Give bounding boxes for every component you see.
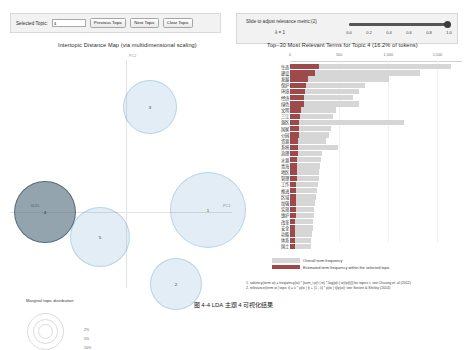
term-bar-row[interactable]: 青海	[236, 163, 464, 168]
term-bar-row[interactable]: 实现	[236, 207, 464, 212]
topic-bubble-label: 5	[99, 235, 101, 240]
term-label: 体系	[281, 237, 289, 243]
term-bar-row[interactable]: 保护	[236, 83, 464, 88]
topic-frequency-bar[interactable]	[290, 163, 297, 168]
term-bar-row[interactable]: 区域	[236, 194, 464, 199]
topic-frequency-bar[interactable]	[290, 194, 296, 199]
term-bar-row[interactable]: 加强	[236, 200, 464, 205]
term-label: 建设	[281, 70, 289, 76]
slider-track[interactable]	[349, 23, 449, 26]
selected-topic-input[interactable]	[52, 19, 86, 28]
term-bar-row[interactable]: 公园	[236, 132, 464, 137]
topic-frequency-bar[interactable]	[290, 132, 299, 137]
topic-frequency-bar[interactable]	[290, 225, 295, 230]
term-bar-row[interactable]: 体系	[236, 238, 464, 243]
term-bar-row[interactable]: 地区	[236, 169, 464, 174]
topic-frequency-bar[interactable]	[290, 70, 315, 75]
legend-swatch-topic	[272, 265, 300, 270]
term-bar-row[interactable]: 资源	[236, 138, 464, 143]
slider-tick-0-0: 0.0	[346, 30, 352, 35]
term-label: 推进	[281, 188, 289, 194]
term-label: 环境	[281, 88, 289, 94]
slider-handle[interactable]	[444, 21, 451, 28]
term-bar-row[interactable]: 推进	[236, 188, 464, 193]
topic-bubble-label: 2	[175, 282, 177, 287]
term-label: 系统	[281, 144, 289, 150]
term-bar-row[interactable]: 维护	[236, 213, 464, 218]
topic-frequency-bar[interactable]	[290, 64, 319, 69]
topic-frequency-bar[interactable]	[290, 219, 295, 224]
term-label: 国家	[281, 126, 289, 132]
term-bar-row[interactable]: 三江	[236, 114, 464, 119]
intertopic-map-title: Intertopic Distance Map (via multidimens…	[58, 42, 197, 48]
topic-frequency-bar[interactable]	[290, 188, 296, 193]
topic-bubble-5[interactable]: 5	[70, 207, 130, 267]
topic-bubble-4[interactable]: 416.2%	[14, 181, 76, 243]
term-label: 绿色	[281, 101, 289, 107]
term-bar-row[interactable]: 系统	[236, 145, 464, 150]
topic-frequency-bar[interactable]	[290, 182, 296, 187]
clear-topic-button[interactable]: Clear Topic	[163, 18, 193, 27]
term-bar-row[interactable]: 水源	[236, 157, 464, 162]
barchart-x-axis	[290, 61, 462, 62]
term-bar-row[interactable]: 工作	[236, 182, 464, 187]
term-bar-row[interactable]: 绿色	[236, 101, 464, 106]
term-bar-row[interactable]: 改革	[236, 219, 464, 224]
term-bar-row[interactable]: 发展	[236, 76, 464, 81]
term-label: 区域	[281, 194, 289, 200]
term-bar-row[interactable]: 国土	[236, 244, 464, 249]
topic-frequency-bar[interactable]	[290, 101, 304, 106]
term-label: 三江	[281, 113, 289, 119]
term-bar-row[interactable]: 建设	[236, 70, 464, 75]
topic-frequency-bar[interactable]	[290, 145, 298, 150]
topic-frequency-bar[interactable]	[290, 169, 297, 174]
topic-frequency-bar[interactable]	[290, 120, 299, 125]
term-label: 管理	[281, 175, 289, 181]
topic-bubble-3[interactable]: 3	[123, 80, 177, 134]
lambda-value-label: λ = 1	[275, 30, 285, 35]
term-bar-row[interactable]: 治理	[236, 151, 464, 156]
x-tick-1500: 1,500	[433, 53, 443, 57]
topic-frequency-bar[interactable]	[290, 157, 297, 162]
term-bar-row[interactable]: 文明	[236, 107, 464, 112]
topic-frequency-bar[interactable]	[290, 89, 305, 94]
topic-frequency-bar[interactable]	[290, 231, 295, 236]
term-label: 加强	[281, 200, 289, 206]
topic-frequency-bar[interactable]	[290, 200, 296, 205]
term-label: 生态	[281, 64, 289, 70]
topic-bubble-1[interactable]: 1	[170, 172, 246, 248]
term-bar-row[interactable]: 经济	[236, 95, 464, 100]
topic-frequency-bar[interactable]	[290, 176, 297, 181]
term-label: 资源	[281, 138, 289, 144]
term-label: 保护	[281, 82, 289, 88]
topic-frequency-bar[interactable]	[290, 238, 295, 243]
term-bar-row[interactable]: 管理	[236, 176, 464, 181]
topic-frequency-bar[interactable]	[290, 126, 299, 131]
relevance-slider[interactable]: 0.00.20.40.60.81.0	[349, 20, 451, 40]
term-label: 改革	[281, 219, 289, 225]
term-label: 功能	[281, 231, 289, 237]
topic-frequency-bar[interactable]	[290, 151, 298, 156]
term-bar-row[interactable]: 功能	[236, 231, 464, 236]
next-topic-button[interactable]: Next Topic	[130, 18, 158, 27]
term-bar-row[interactable]: 国家	[236, 126, 464, 131]
x-tick-0: 0	[289, 53, 291, 57]
topic-frequency-bar[interactable]	[290, 207, 296, 212]
term-bar-row[interactable]: 安全	[236, 225, 464, 230]
term-bar-row[interactable]: 生态	[236, 64, 464, 69]
relevance-metric-label: Slide to adjust relevance metric:(2)	[246, 19, 317, 24]
previous-topic-button[interactable]: Previous Topic	[90, 18, 126, 27]
topic-frequency-bar[interactable]	[290, 95, 304, 100]
term-barchart-title: Top–30 Most Relevant Terms for Topic 4 (…	[267, 42, 418, 48]
topic-frequency-bar[interactable]	[290, 244, 295, 249]
topic-frequency-bar[interactable]	[290, 114, 300, 119]
term-bar-row[interactable]: 环境	[236, 89, 464, 94]
topic-frequency-bar[interactable]	[290, 107, 301, 112]
overall-frequency-bar[interactable]	[290, 120, 404, 125]
topic-frequency-bar[interactable]	[290, 76, 308, 81]
topic-frequency-bar[interactable]	[290, 83, 306, 88]
term-bar-row[interactable]: 源区	[236, 120, 464, 125]
topic-frequency-bar[interactable]	[290, 213, 296, 218]
topic-frequency-bar[interactable]	[290, 138, 298, 143]
legend-size-label-10: 10%	[84, 346, 91, 350]
